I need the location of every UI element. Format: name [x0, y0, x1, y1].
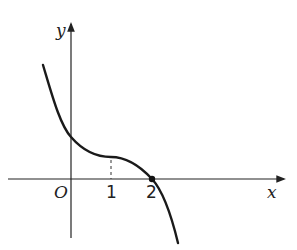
x-axis-label: x: [267, 182, 277, 202]
graph-canvas: y x O 1 2: [0, 0, 297, 250]
y-axis-label: y: [55, 20, 66, 40]
tick-label-1: 1: [106, 182, 117, 202]
origin-label: O: [54, 182, 68, 202]
function-graph: y x O 1 2: [0, 0, 297, 250]
function-curve: [43, 65, 178, 243]
tick-label-2: 2: [146, 182, 157, 202]
